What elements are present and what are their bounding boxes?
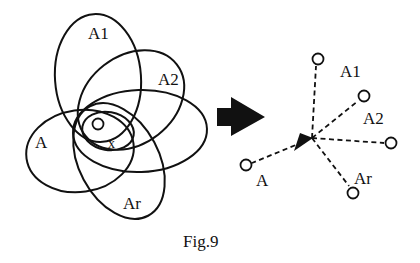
label-ar: Ar <box>123 194 141 213</box>
transform-arrow-icon <box>217 97 265 136</box>
node-a1 <box>313 54 324 65</box>
node-a2 <box>359 91 370 102</box>
vector-a <box>252 142 303 163</box>
vector-a1 <box>312 66 316 138</box>
right-label-a: A <box>256 171 269 190</box>
figure-caption: Fig.9 <box>183 232 218 251</box>
ellipse-a2 <box>58 30 204 171</box>
right-vector-diagram: A1 A2 Ar A <box>241 54 397 199</box>
right-label-a2: A2 <box>363 109 384 128</box>
label-x: x <box>108 136 115 151</box>
vector-a2 <box>312 101 358 138</box>
node-e <box>386 138 397 149</box>
label-a2: A2 <box>158 70 179 89</box>
right-label-ar: Ar <box>354 169 372 188</box>
label-a1: A1 <box>88 24 109 43</box>
vector-ar <box>312 138 349 186</box>
label-a: A <box>35 133 48 152</box>
left-ellipse-diagram: A1 A2 A Ar x <box>21 11 209 234</box>
figure-canvas: A1 A2 A Ar x A1 A2 Ar A Fig.9 <box>0 0 420 263</box>
arrowhead-icon <box>294 133 313 151</box>
origin-circle-icon <box>93 119 104 130</box>
vector-e <box>312 138 384 143</box>
node-a <box>241 160 252 171</box>
right-label-a1: A1 <box>340 62 361 81</box>
node-ar <box>348 188 359 199</box>
